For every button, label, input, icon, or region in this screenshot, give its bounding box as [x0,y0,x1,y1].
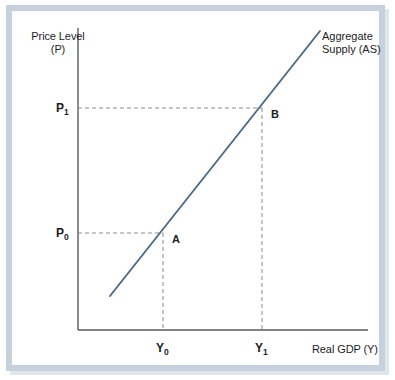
x-tick-y1-base: Y [255,341,263,355]
aggregate-supply-curve [110,31,320,296]
y-tick-p0-subscript: 0 [64,232,69,242]
y-tick-p0-base: P [56,226,64,240]
aggregate-supply-curve-label: Aggregate Supply (AS) [322,30,392,57]
x-tick-y0-subscript: 0 [164,347,169,357]
curve-label-line1: Aggregate [322,30,373,42]
y-axis-title: Price Level (P) [22,30,94,57]
x-tick-label-y1: Y1 [255,341,268,356]
point-label-a: A [172,233,180,246]
y-axis-title-line2: (P) [22,43,94,56]
x-tick-y0-base: Y [156,341,164,355]
y-axis-title-line1: Price Level [31,30,84,42]
y-tick-label-p1: P1 [56,101,69,116]
y-tick-p1-subscript: 1 [64,107,69,117]
y-tick-label-p0: P0 [56,226,69,241]
point-label-b: B [271,108,279,121]
figure-root: Price Level (P) Real GDP (Y) Aggregate S… [0,0,395,380]
x-tick-label-y0: Y0 [156,341,169,356]
x-axis-title: Real GDP (Y) [312,343,378,356]
curve-label-line2: Supply (AS) [322,43,381,55]
plot-area [0,0,395,380]
y-tick-p1-base: P [56,101,64,115]
x-tick-y1-subscript: 1 [263,347,268,357]
